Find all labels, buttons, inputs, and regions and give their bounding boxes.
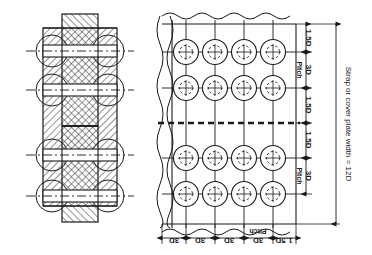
rivet: [203, 40, 228, 65]
rivet: [261, 76, 286, 101]
rivet: [232, 76, 257, 101]
rivet: [232, 182, 257, 207]
rivet: [174, 76, 199, 101]
dim-label-h2: 3D: [195, 236, 206, 245]
rivet: [261, 182, 286, 207]
figure-canvas: 1.5D 3D 1.5D 1.5D 3D Pitch Pitch Strap o…: [0, 0, 372, 255]
dim-label-v5: 3D: [304, 171, 313, 182]
rivet: [232, 40, 257, 65]
pitch-label-v5: Pitch: [296, 167, 303, 184]
rivet: [174, 146, 199, 171]
dim-label-h5: 1.5D: [275, 236, 292, 245]
rivet: [203, 182, 228, 207]
rivet: [203, 76, 228, 101]
dim-label-h1: 3D: [169, 236, 180, 245]
drawing-root: 1.5D 3D 1.5D 1.5D 3D Pitch Pitch Strap o…: [0, 0, 372, 255]
dim-label-h3: 3D: [224, 236, 235, 245]
dim-label-v4: 1.5D: [304, 131, 313, 148]
main-plate-upper: [62, 14, 98, 126]
rivet: [261, 146, 286, 171]
dim-label-v1: 1.5D: [304, 29, 313, 46]
rivet: [261, 40, 286, 65]
rivet: [232, 146, 257, 171]
dim-label-v2: 3D: [304, 65, 313, 76]
pitch-label-h: Pitch: [249, 228, 266, 235]
strap-width-label: Strap or cover plate width = 12D: [344, 67, 353, 182]
rivet: [174, 182, 199, 207]
dim-label-v3: 1.5D: [304, 96, 313, 113]
pitch-label-v2: Pitch: [296, 61, 303, 78]
rivet: [174, 40, 199, 65]
main-plate-lower: [62, 126, 98, 222]
rivet: [203, 146, 228, 171]
dim-label-h4: 3D: [253, 236, 264, 245]
